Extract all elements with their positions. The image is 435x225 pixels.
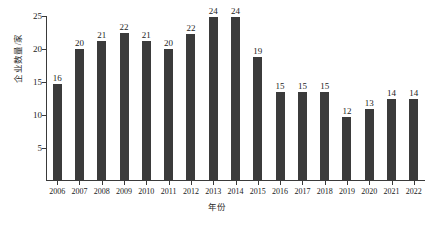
plot-area: 1620212221202224241915151512131414 — [46, 16, 425, 181]
x-axis-tick-mark — [57, 181, 58, 185]
y-axis-line — [46, 16, 47, 181]
bar-value-label: 24 — [224, 7, 248, 16]
bar — [320, 92, 329, 180]
bar-value-label: 22 — [179, 24, 203, 33]
x-axis-tick-mark — [236, 181, 237, 185]
bar-value-label: 22 — [112, 23, 136, 32]
x-axis-tick-mark — [146, 181, 147, 185]
bar — [253, 57, 262, 180]
bar-value-label: 24 — [201, 7, 225, 16]
bar — [387, 99, 396, 180]
y-axis-tick-label: 25 — [18, 12, 42, 21]
bar-value-label: 14 — [402, 89, 426, 98]
x-axis-tick-mark — [302, 181, 303, 185]
y-axis-tick-labels: 510152025 — [18, 0, 42, 225]
bar — [342, 117, 351, 180]
bar-value-label: 21 — [90, 31, 114, 40]
x-axis-tick-mark — [414, 181, 415, 185]
bar-value-label: 20 — [157, 39, 181, 48]
bar — [231, 17, 240, 180]
bar — [53, 84, 62, 180]
bar-value-label: 19 — [246, 47, 270, 56]
bar-value-label: 21 — [134, 31, 158, 40]
bar — [120, 33, 129, 180]
bar-value-label: 14 — [380, 89, 404, 98]
x-axis-tick-mark — [347, 181, 348, 185]
y-axis-tick-mark — [42, 115, 46, 116]
y-axis-tick-label: 15 — [18, 78, 42, 87]
y-axis-tick-label: 5 — [18, 144, 42, 153]
bar-value-label: 15 — [290, 82, 314, 91]
x-axis-tick-mark — [102, 181, 103, 185]
x-axis-tick-mark — [79, 181, 80, 185]
x-axis-tick-mark — [124, 181, 125, 185]
y-axis-tick-label: 10 — [18, 111, 42, 120]
bar — [276, 92, 285, 180]
x-axis-tick-label: 2022 — [400, 188, 428, 196]
bar — [365, 109, 374, 180]
x-axis-tick-mark — [392, 181, 393, 185]
x-axis-tick-mark — [169, 181, 170, 185]
bar — [75, 49, 84, 180]
bar-value-label: 13 — [357, 99, 381, 108]
x-axis-tick-mark — [325, 181, 326, 185]
x-axis-tick-mark — [213, 181, 214, 185]
y-axis-tick-mark — [42, 16, 46, 17]
bar — [298, 92, 307, 180]
bar-value-label: 15 — [313, 82, 337, 91]
bar — [164, 49, 173, 180]
bar-value-label: 15 — [268, 82, 292, 91]
bar — [142, 41, 151, 180]
bar — [97, 41, 106, 180]
bar-value-label: 20 — [67, 39, 91, 48]
bar — [186, 34, 195, 180]
x-axis-title: 年份 — [0, 200, 435, 212]
x-axis-tick-mark — [191, 181, 192, 185]
x-axis-tick-mark — [280, 181, 281, 185]
bar-chart-figure: 企业数量/家 510152025 16202122212022242419151… — [0, 0, 435, 225]
bar-value-label: 16 — [45, 74, 69, 83]
x-axis-tick-mark — [369, 181, 370, 185]
y-axis-tick-mark — [42, 49, 46, 50]
y-axis-tick-label: 20 — [18, 45, 42, 54]
x-axis-tick-mark — [258, 181, 259, 185]
bar-value-label: 12 — [335, 107, 359, 116]
bar — [409, 99, 418, 180]
y-axis-tick-mark — [42, 148, 46, 149]
bar — [209, 17, 218, 180]
